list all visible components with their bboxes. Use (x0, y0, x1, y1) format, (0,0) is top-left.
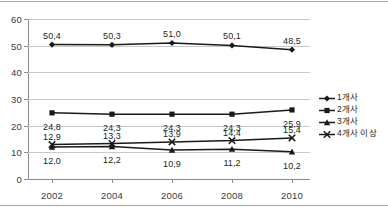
x-tick (112, 179, 113, 183)
data-point-square (324, 108, 329, 113)
plot-area: 0102030405060 20022004200620082010 50,45… (28, 19, 310, 179)
y-tick-label: 50 (11, 40, 22, 51)
data-point-square (49, 110, 54, 115)
x-tick-label: 2006 (161, 190, 183, 201)
y-tick-label: 60 (11, 14, 22, 25)
y-tick-label: 0 (17, 174, 22, 185)
legend-item[interactable]: 3개사 (318, 114, 388, 125)
series-lines (28, 19, 310, 179)
data-point-diamond (229, 42, 235, 48)
data-label: 48,5 (283, 36, 301, 46)
data-label: 50,1 (223, 31, 241, 41)
legend-label: 4개사 이상 (337, 126, 377, 138)
data-point-diamond (289, 47, 295, 53)
x-tick (292, 179, 293, 183)
legend-label: 2개사 (337, 102, 358, 114)
x-tick-label: 2004 (101, 190, 123, 201)
chart-figure: 0102030405060 20022004200620082010 50,45… (0, 0, 388, 214)
data-label: 14,4 (223, 128, 241, 138)
data-label: 12,2 (103, 155, 121, 165)
data-label: 12,9 (43, 132, 61, 142)
y-tick-label: 30 (11, 94, 22, 105)
legend-marker-diamond-icon (318, 90, 336, 101)
data-label: 11,2 (223, 158, 240, 168)
data-label: 15,4 (283, 125, 301, 135)
gridline (28, 179, 310, 180)
data-point-diamond (324, 95, 330, 101)
data-label: 24,8 (43, 122, 61, 132)
data-label: 13,9 (163, 129, 181, 139)
data-label: 13,3 (103, 131, 121, 141)
legend-label: 3개사 (337, 114, 358, 126)
data-label: 51,0 (163, 29, 181, 39)
x-tick-label: 2002 (41, 190, 63, 201)
data-label: 50,4 (43, 31, 61, 41)
data-point-diamond (49, 42, 55, 48)
data-point-square (169, 112, 174, 117)
legend: 1개사2개사3개사4개사 이상 (318, 90, 388, 138)
data-label: 10,9 (163, 159, 181, 169)
y-tick-label: 20 (11, 120, 22, 131)
legend-marker-square-icon (318, 102, 336, 113)
y-tick (24, 179, 28, 180)
x-tick (232, 179, 233, 183)
y-tick-label: 10 (11, 147, 22, 158)
x-tick (172, 179, 173, 183)
legend-item[interactable]: 1개사 (318, 90, 388, 101)
legend-item[interactable]: 4개사 이상 (318, 126, 388, 137)
data-point-square (109, 112, 114, 117)
legend-marker-cross-icon (318, 126, 336, 137)
data-point-diamond (169, 40, 175, 46)
data-label: 12,0 (43, 156, 61, 166)
bottom-divider (0, 205, 388, 206)
legend-marker-triangle-icon (318, 114, 336, 125)
data-point-square (289, 107, 294, 112)
data-point-square (229, 112, 234, 117)
legend-item[interactable]: 2개사 (318, 102, 388, 113)
x-tick-label: 2008 (221, 190, 243, 201)
data-point-diamond (109, 42, 115, 48)
x-tick-label: 2010 (281, 190, 303, 201)
data-label: 50,3 (103, 31, 121, 41)
legend-label: 1개사 (337, 90, 358, 102)
x-tick (52, 179, 53, 183)
top-divider (0, 1, 388, 2)
y-tick-label: 40 (11, 67, 22, 78)
data-label: 10,2 (283, 161, 301, 171)
